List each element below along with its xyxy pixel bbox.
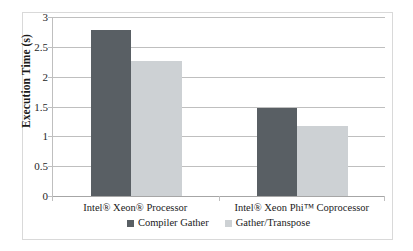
legend-label: Compiler Gather <box>138 217 209 229</box>
legend-label: Gather/Transpose <box>236 217 310 229</box>
bar <box>131 61 182 196</box>
y-axis-tick-label: 2.5 <box>18 41 48 52</box>
bar <box>257 108 297 196</box>
legend-item[interactable]: Compiler Gather <box>127 217 209 229</box>
y-axis-tick-labels: 32.521.510.50 <box>18 10 48 188</box>
legend-swatch-icon <box>225 220 232 227</box>
category-separator <box>52 196 53 201</box>
category-separator <box>384 196 385 201</box>
y-axis-tick-label: 0 <box>18 191 48 202</box>
y-axis-tick-label: 1 <box>18 131 48 142</box>
y-axis-line <box>52 17 53 196</box>
category-label: Intel® Xeon® Processor <box>52 201 219 215</box>
y-axis-tick-label: 3 <box>18 12 48 23</box>
plot-area <box>52 17 385 196</box>
y-axis-tick-label: 1.5 <box>18 101 48 112</box>
gridline <box>52 17 385 18</box>
y-axis-tick-label: 2 <box>18 71 48 82</box>
legend-swatch-icon <box>127 220 134 227</box>
category-separator <box>219 196 220 201</box>
category-label: Intel® Xeon Phi™ Coprocessor <box>219 201 386 215</box>
legend-item[interactable]: Gather/Transpose <box>225 217 310 229</box>
bar <box>91 30 131 196</box>
chart-legend: Compiler GatherGather/Transpose <box>52 215 385 231</box>
bar <box>297 126 348 196</box>
y-axis-tick-label: 0.5 <box>18 161 48 172</box>
bar-chart-figure: Execution Time (s) 32.521.510.50 Intel® … <box>0 0 413 251</box>
